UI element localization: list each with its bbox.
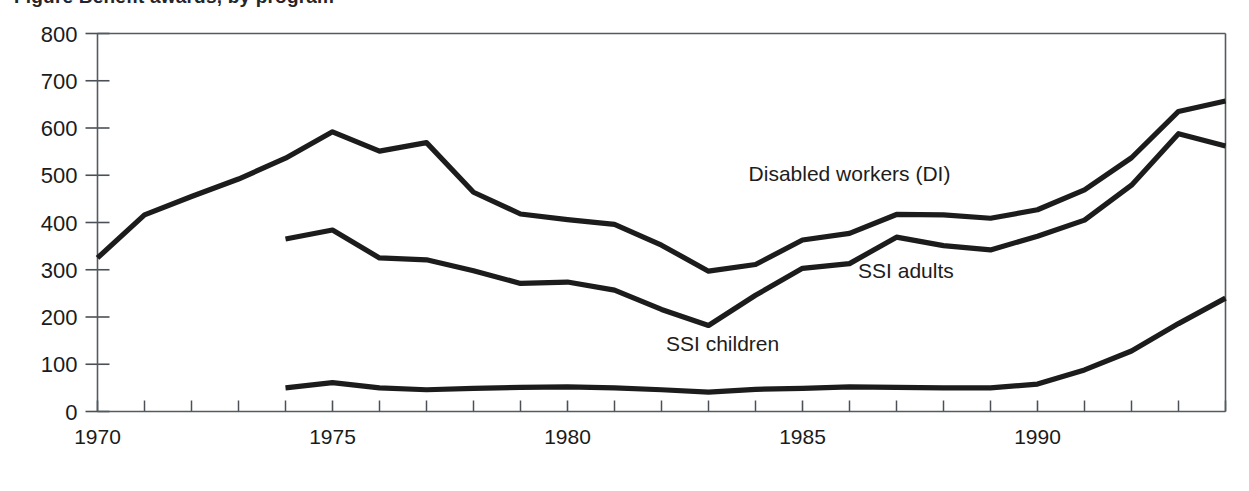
y-tick-label: 800 xyxy=(41,22,78,47)
y-tick-label: 600 xyxy=(41,116,78,141)
x-tick-label: 1970 xyxy=(74,425,121,448)
series-label-0: Disabled workers (DI) xyxy=(749,162,951,185)
x-tick-label: 1985 xyxy=(779,425,826,448)
series-line-0 xyxy=(98,101,1226,271)
x-tick-label: 1980 xyxy=(544,425,591,448)
y-tick-label: 0 xyxy=(65,400,77,425)
y-tick-label: 400 xyxy=(41,211,78,236)
y-tick-label: 300 xyxy=(41,258,78,283)
x-tick-label: 1990 xyxy=(1014,425,1061,448)
line-chart-plot: 0100200300400500600700800 19701975198019… xyxy=(0,0,1249,491)
y-tick-label: 100 xyxy=(41,352,78,377)
y-tick-label: 200 xyxy=(41,305,78,330)
y-tick-label: 700 xyxy=(41,69,78,94)
x-axis-ticks: 19701975198019851990 xyxy=(74,401,1225,448)
x-tick-label: 1975 xyxy=(309,425,356,448)
series-lines xyxy=(98,101,1226,392)
series-label-2: SSI children xyxy=(666,332,779,355)
y-tick-label: 500 xyxy=(41,163,78,188)
axis-lines xyxy=(98,34,1226,412)
figure-container: Figure Benefit awards, by program 010020… xyxy=(0,0,1249,491)
y-axis-ticks: 0100200300400500600700800 xyxy=(41,22,110,425)
series-label-1: SSI adults xyxy=(858,259,954,282)
